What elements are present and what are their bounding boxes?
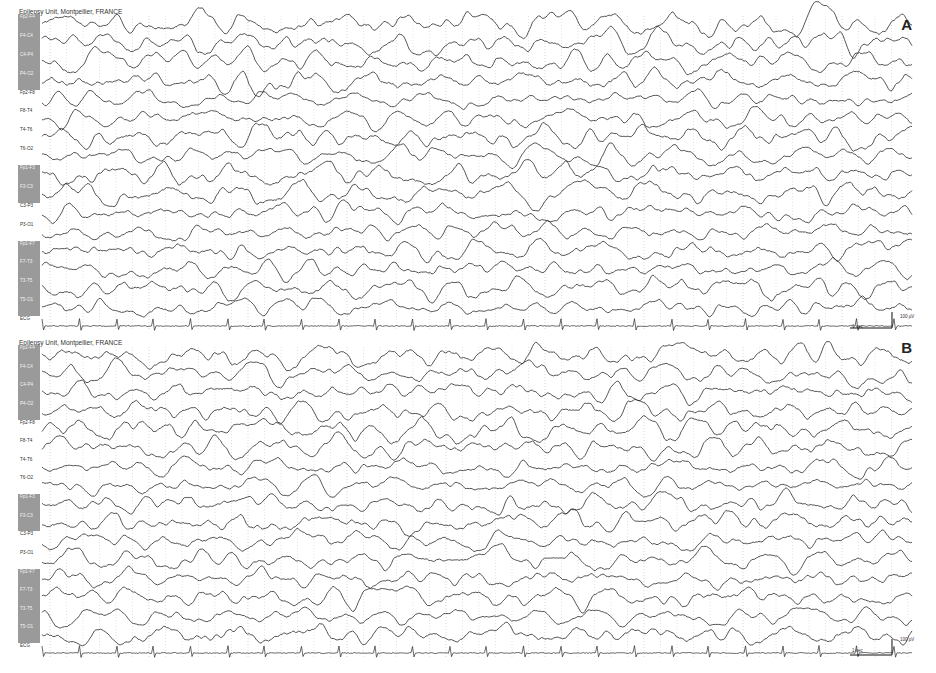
- channel-label: P4-O2: [18, 401, 40, 420]
- eeg-panel-a: Epilepsy Unit, Montpellier, FRANCE A Fp2…: [0, 0, 936, 336]
- eeg-trace: [42, 622, 912, 646]
- channel-label: P4-O2: [18, 71, 40, 90]
- channel-label: ECG: [18, 643, 40, 662]
- eeg-trace: [42, 416, 912, 445]
- channel-label: F7-T3: [18, 587, 40, 606]
- eeg-trace: [42, 456, 912, 479]
- eeg-trace: [42, 200, 912, 225]
- channel-label: T5-O1: [18, 297, 40, 316]
- eeg-traces-a: [0, 0, 936, 336]
- channel-label: F4-C4: [18, 33, 40, 52]
- channel-label: T6-O2: [18, 475, 40, 494]
- amplitude-scale-b: 100 µV: [900, 637, 914, 642]
- channel-label: Fp2-F4: [18, 14, 40, 33]
- eeg-trace: [42, 607, 912, 628]
- eeg-trace: [42, 342, 912, 371]
- eeg-trace: [42, 488, 912, 515]
- channel-label: T4-T6: [18, 127, 40, 146]
- eeg-trace: [42, 122, 912, 151]
- channel-label: F4-C4: [18, 364, 40, 383]
- channel-label: Fp1-F3: [18, 494, 40, 513]
- channel-label: F7-T3: [18, 259, 40, 278]
- ecg-trace: [42, 646, 912, 658]
- channel-label: Fp1-F7: [18, 241, 40, 260]
- channel-label: C4-P4: [18, 382, 40, 401]
- time-scale-b: 1 sec: [852, 648, 863, 653]
- channel-label: Fp1-F3: [18, 165, 40, 184]
- eeg-trace: [42, 89, 912, 110]
- time-scale-a: 1 sec: [852, 324, 863, 329]
- eeg-trace: [42, 432, 912, 462]
- channel-label: T6-O2: [18, 146, 40, 165]
- eeg-trace: [42, 566, 912, 590]
- eeg-trace: [42, 46, 912, 75]
- channel-label: F8-T4: [18, 438, 40, 457]
- channel-label: Fp1-F7: [18, 569, 40, 588]
- eeg-trace: [42, 528, 912, 551]
- eeg-traces-b: [0, 337, 936, 673]
- channel-label: C3-P3: [18, 531, 40, 550]
- eeg-trace: [42, 475, 912, 497]
- channel-label: Fp2-F8: [18, 90, 40, 109]
- eeg-panel-b: Epilepsy Unit, Montpellier, FRANCE B Fp2…: [0, 337, 936, 673]
- eeg-trace: [42, 2, 912, 39]
- channel-label: T5-O1: [18, 624, 40, 643]
- eeg-trace: [42, 296, 912, 317]
- channel-label: P3-O1: [18, 550, 40, 569]
- eeg-trace: [42, 238, 912, 263]
- eeg-trace: [42, 380, 912, 406]
- channel-label: C4-P4: [18, 52, 40, 71]
- eeg-trace: [42, 258, 912, 283]
- channel-label: F8-T4: [18, 108, 40, 127]
- channel-label: Fp2-F8: [18, 420, 40, 439]
- channel-label: F3-C3: [18, 184, 40, 203]
- eeg-trace: [42, 67, 912, 97]
- eeg-trace: [42, 509, 912, 536]
- channel-label: T3-T5: [18, 278, 40, 297]
- eeg-trace: [42, 143, 912, 169]
- channel-label: T4-T6: [18, 457, 40, 476]
- channel-label: ECG: [18, 316, 40, 335]
- eeg-trace: [42, 220, 912, 241]
- channel-label: Fp2-F4: [18, 345, 40, 364]
- ecg-trace: [42, 319, 912, 331]
- eeg-trace: [42, 160, 912, 186]
- eeg-trace: [42, 107, 912, 132]
- eeg-trace: [42, 179, 912, 211]
- eeg-trace: [42, 275, 912, 303]
- channel-label: T3-T5: [18, 606, 40, 625]
- eeg-trace: [42, 544, 912, 576]
- panel-a-letter: A: [901, 16, 912, 33]
- channel-label: P3-O1: [18, 222, 40, 241]
- eeg-trace: [42, 358, 912, 389]
- eeg-trace: [42, 586, 912, 613]
- panel-b-letter: B: [901, 339, 912, 356]
- channel-label: F3-C3: [18, 513, 40, 532]
- channel-label: C3-P3: [18, 203, 40, 222]
- amplitude-scale-a: 100 µV: [900, 314, 914, 319]
- eeg-trace: [42, 400, 912, 425]
